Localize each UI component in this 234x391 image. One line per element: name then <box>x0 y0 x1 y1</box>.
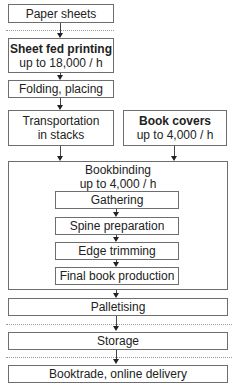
step-edge-trimming: Edge trimming <box>55 242 179 260</box>
node-label: Storage <box>97 334 139 348</box>
step-label: Edge trimming <box>78 244 155 258</box>
dotted-separator <box>6 30 114 31</box>
node-label: Booktrade, online delivery <box>49 367 187 381</box>
step-spine-preparation: Spine preparation <box>55 217 179 235</box>
node-palletising: Palletising <box>8 298 228 316</box>
step-label: Gathering <box>91 193 144 207</box>
node-label-line1: Transportation <box>23 114 100 128</box>
arrow-head <box>113 326 119 331</box>
node-storage: Storage <box>8 332 228 350</box>
node-sheet-fed-printing: Sheet fed printing up to 18,000 / h <box>8 38 114 73</box>
step-gathering: Gathering <box>55 191 179 209</box>
step-final-book-production: Final book production <box>55 267 179 285</box>
step-label: Final book production <box>60 269 175 283</box>
node-booktrade: Booktrade, online delivery <box>8 365 228 383</box>
node-label: Folding, placing <box>19 82 103 96</box>
node-rate: up to 18,000 / h <box>19 56 102 70</box>
node-label: Book covers <box>139 114 211 128</box>
node-label: Paper sheets <box>26 7 97 21</box>
dotted-separator <box>6 324 232 325</box>
node-rate: up to 4,000 / h <box>80 177 157 191</box>
node-paper-sheets: Paper sheets <box>8 4 114 23</box>
node-transportation: Transportation in stacks <box>8 110 114 146</box>
arrow-head <box>113 359 119 364</box>
node-label-line2: in stacks <box>38 128 85 142</box>
dotted-separator <box>6 357 232 358</box>
node-book-covers: Book covers up to 4,000 / h <box>123 110 227 146</box>
node-label: Palletising <box>91 300 146 314</box>
node-label: Sheet fed printing <box>10 42 112 56</box>
node-folding-placing: Folding, placing <box>8 80 114 98</box>
step-label: Spine preparation <box>70 219 165 233</box>
node-rate: up to 4,000 / h <box>137 128 214 142</box>
node-label: Bookbinding <box>85 163 151 177</box>
